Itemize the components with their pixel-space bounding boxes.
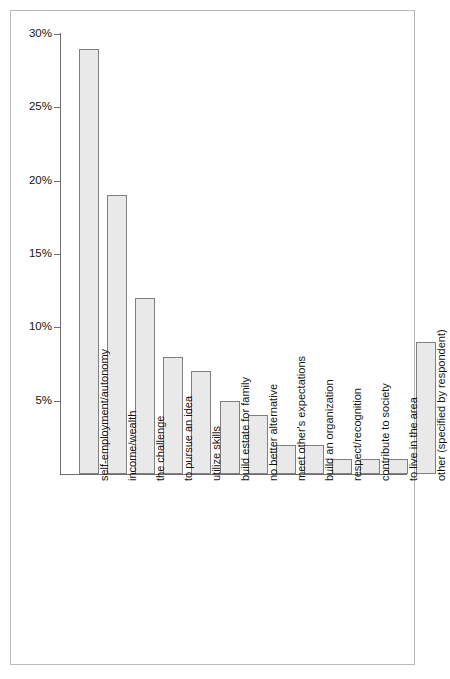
y-axis-tick bbox=[54, 254, 60, 255]
y-axis-tick-label: 15% bbox=[11, 248, 52, 259]
y-axis-tick-label: 10% bbox=[11, 321, 52, 332]
y-axis-line bbox=[60, 33, 61, 475]
x-axis-category-label: utilize skills bbox=[207, 426, 225, 481]
bar-chart-plot: 5%10%15%20%25%30% self-employment/autono… bbox=[11, 11, 416, 666]
y-axis-tick-label-text: 10% bbox=[12, 321, 52, 332]
y-axis-tick-label: 20% bbox=[11, 175, 52, 186]
y-axis-tick-label-text: 5% bbox=[12, 395, 52, 406]
y-axis-tick-label: 30% bbox=[11, 28, 52, 39]
y-axis-tick-label-text: 20% bbox=[12, 175, 52, 186]
y-axis-tick-label-text: 25% bbox=[12, 101, 52, 112]
x-axis-category-label: self-employment/autonomy bbox=[95, 349, 113, 481]
y-axis-tick-label: 25% bbox=[11, 101, 52, 112]
x-axis-category-label: other (specified by respondent) bbox=[432, 329, 450, 481]
y-axis-tick-label-text: 15% bbox=[12, 248, 52, 259]
x-axis-category-label: build estate for family bbox=[236, 377, 254, 481]
x-axis-category-label: no better alternative bbox=[264, 384, 282, 481]
y-axis-tick bbox=[54, 327, 60, 328]
x-axis-category-label: to live in the area bbox=[404, 397, 422, 481]
x-axis-category-label: respect/recognition bbox=[348, 388, 366, 481]
x-axis-category-label: the challenge bbox=[151, 416, 169, 481]
y-axis-tick bbox=[54, 34, 60, 35]
x-axis-category-label: income/wealth bbox=[123, 411, 141, 481]
y-axis-tick-label: 5% bbox=[11, 395, 52, 406]
y-axis-tick bbox=[54, 181, 60, 182]
chart-figure: 5%10%15%20%25%30% self-employment/autono… bbox=[10, 10, 415, 665]
y-axis-tick-label-text: 30% bbox=[12, 28, 52, 39]
x-axis-category-label: build an organization bbox=[320, 379, 338, 481]
x-axis-category-label: meet other's expectations bbox=[292, 356, 310, 481]
y-axis-tick bbox=[54, 401, 60, 402]
x-axis-category-label: contribute to society bbox=[376, 383, 394, 481]
y-axis-tick bbox=[54, 107, 60, 108]
x-axis-category-label: to pursue an idea bbox=[179, 396, 197, 481]
